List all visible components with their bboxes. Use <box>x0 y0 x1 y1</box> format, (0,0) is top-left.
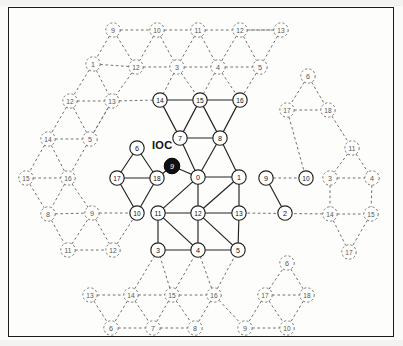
dashed-edge <box>73 107 86 132</box>
node-label: 11 <box>155 210 162 217</box>
node-12[interactable]: 12 <box>233 23 247 37</box>
node-label: 8 <box>218 134 222 143</box>
node-6[interactable]: 6 <box>130 141 144 155</box>
dashed-edge <box>333 220 346 245</box>
node-16[interactable]: 16 <box>233 93 247 107</box>
solid-edge-6-17 <box>121 154 133 172</box>
dashed-edge <box>249 301 262 322</box>
node-label: 11 <box>195 27 202 34</box>
node-3[interactable]: 3 <box>170 60 184 74</box>
node-label: 8 <box>193 324 197 333</box>
node-12[interactable]: 12 <box>63 94 77 108</box>
node-4[interactable]: 4 <box>211 60 225 74</box>
node-15[interactable]: 15 <box>19 171 33 185</box>
node-17[interactable]: 17 <box>280 103 294 117</box>
node-16[interactable]: 16 <box>61 171 75 185</box>
node-label: 6 <box>285 259 289 268</box>
node-1[interactable]: 1 <box>86 57 100 71</box>
node-8[interactable]: 8 <box>41 207 55 221</box>
dashed-edge <box>203 73 214 93</box>
node-11[interactable]: 11 <box>61 243 75 257</box>
node-label: 14 <box>326 211 334 218</box>
node-11[interactable]: 11 <box>151 206 165 220</box>
node-9[interactable]: 9 <box>85 206 99 220</box>
node-2[interactable]: 2 <box>278 206 292 220</box>
node-10[interactable]: 10 <box>150 23 164 37</box>
node-17[interactable]: 17 <box>110 171 124 185</box>
node-3[interactable]: 3 <box>323 171 337 185</box>
node-7[interactable]: 7 <box>173 131 187 145</box>
node-6[interactable]: 6 <box>104 321 118 335</box>
dashed-edge <box>119 100 153 101</box>
node-10[interactable]: 10 <box>130 206 144 220</box>
dashed-edge <box>96 219 110 243</box>
node-18[interactable]: 18 <box>150 171 164 185</box>
solid-edge-16-8 <box>223 106 236 131</box>
node-12[interactable]: 12 <box>129 60 143 74</box>
node-4[interactable]: 4 <box>365 171 379 185</box>
node-5[interactable]: 5 <box>83 132 97 146</box>
dashed-edge <box>72 145 87 171</box>
ioc-node[interactable]: 9 <box>164 158 180 174</box>
node-label: 12 <box>109 247 117 254</box>
node-label: 5 <box>236 246 240 255</box>
node-9[interactable]: 9 <box>106 23 120 37</box>
node-13[interactable]: 13 <box>274 23 288 37</box>
node-13[interactable]: 13 <box>232 206 246 220</box>
solid-edge-IOC-0 <box>179 169 192 174</box>
node-6[interactable]: 6 <box>280 256 294 270</box>
node-15[interactable]: 15 <box>165 288 179 302</box>
dashed-edge <box>97 36 110 58</box>
dashed-edge <box>72 184 88 207</box>
node-14[interactable]: 14 <box>323 207 337 221</box>
node-18[interactable]: 18 <box>321 103 335 117</box>
solid-edge-6-18 <box>141 154 153 172</box>
node-17[interactable]: 17 <box>258 288 272 302</box>
solid-edge-14-7 <box>163 106 176 131</box>
node-15[interactable]: 15 <box>364 207 378 221</box>
node-11[interactable]: 11 <box>191 23 205 37</box>
dashed-edge <box>160 36 173 60</box>
node-label: 14 <box>127 292 135 299</box>
solid-edge-11-4 <box>163 218 192 245</box>
solid-edge-7-0 <box>183 145 195 171</box>
node-10[interactable]: 10 <box>299 171 313 185</box>
node-label: 9 <box>243 324 247 333</box>
node-18[interactable]: 18 <box>300 288 314 302</box>
node-12[interactable]: 12 <box>106 243 120 257</box>
node-label: 5 <box>258 63 262 72</box>
node-4[interactable]: 4 <box>191 243 205 257</box>
node-label: 12 <box>66 98 74 105</box>
dashed-edge <box>334 154 347 172</box>
dashed-edge <box>72 219 88 244</box>
node-15[interactable]: 15 <box>193 93 207 107</box>
node-14[interactable]: 14 <box>124 288 138 302</box>
node-14[interactable]: 14 <box>153 93 167 107</box>
node-5[interactable]: 5 <box>253 60 267 74</box>
dashed-edge <box>94 107 109 133</box>
node-5[interactable]: 5 <box>231 243 245 257</box>
node-12[interactable]: 12 <box>191 206 205 220</box>
node-10[interactable]: 10 <box>280 321 294 335</box>
node-9[interactable]: 9 <box>238 321 252 335</box>
node-label: 14 <box>44 136 52 143</box>
ioc-node-label: 9 <box>170 162 174 171</box>
node-16[interactable]: 16 <box>207 288 221 302</box>
node-8[interactable]: 8 <box>213 131 227 145</box>
node-17[interactable]: 17 <box>342 245 356 259</box>
node-9[interactable]: 9 <box>259 171 273 185</box>
node-label: 17 <box>283 107 291 114</box>
node-6[interactable]: 6 <box>301 69 315 83</box>
node-13[interactable]: 13 <box>83 288 97 302</box>
node-7[interactable]: 7 <box>146 321 160 335</box>
node-0[interactable]: 0 <box>191 170 205 184</box>
node-1[interactable]: 1 <box>232 170 246 184</box>
node-8[interactable]: 8 <box>188 321 202 335</box>
node-11[interactable]: 11 <box>345 141 359 155</box>
dashed-edge <box>55 213 85 214</box>
node-14[interactable]: 14 <box>41 132 55 146</box>
node-label: 11 <box>349 145 356 152</box>
node-3[interactable]: 3 <box>151 243 165 257</box>
node-13[interactable]: 13 <box>105 94 119 108</box>
solid-edge-17-10 <box>121 184 134 206</box>
